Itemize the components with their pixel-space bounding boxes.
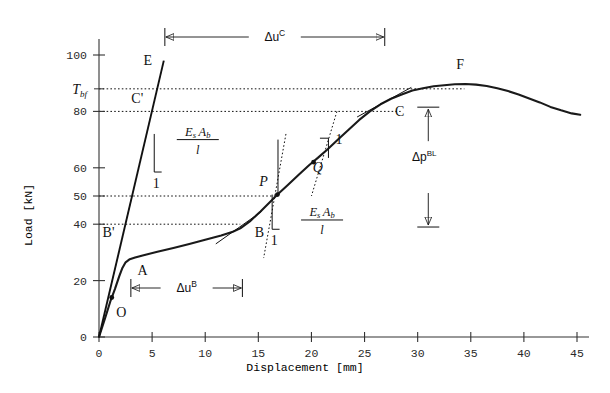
- main-load-displacement-curve: [99, 84, 580, 337]
- slope-label-lower-denominator: l: [320, 223, 324, 237]
- point-marker-o: [109, 295, 114, 300]
- x-tick-label: 15: [251, 347, 265, 360]
- dimension-annotations: ΔuCΔuBΔpBLEs AblEs Abl111: [131, 28, 439, 297]
- slope-label-upper: Es Abl: [177, 125, 219, 157]
- x-tick-label: 0: [96, 347, 103, 360]
- point-label-q: Q: [313, 160, 323, 175]
- x-tick-label: 40: [517, 347, 531, 360]
- x-tick-label: 45: [570, 347, 584, 360]
- x-tick-label: 20: [305, 347, 319, 360]
- x-tick-label: 5: [149, 347, 156, 360]
- x-tick-label: 10: [198, 347, 212, 360]
- slope-label-upper-denominator: l: [196, 143, 200, 157]
- point-label-bp: B': [103, 225, 115, 240]
- y-tick-label-tbf: Tbf: [72, 82, 88, 99]
- point-label-e: E: [144, 53, 153, 68]
- y-tick-label: 0: [80, 331, 87, 344]
- x-tick-label: 30: [411, 347, 425, 360]
- point-label-o: O: [116, 305, 126, 320]
- load-displacement-chart: ΔuCΔuBΔpBLEs AblEs Abl111 OABB'PQCC'EF 0…: [0, 0, 610, 393]
- y-tick-label: 50: [73, 190, 87, 203]
- x-tick-label: 25: [358, 347, 372, 360]
- axes: [93, 39, 589, 342]
- x-tick-label: 35: [464, 347, 478, 360]
- y-tick-label: 100: [66, 49, 87, 62]
- y-axis-title: Load [kN]: [8, 146, 22, 246]
- delta-p-bl-label: ΔpBL: [412, 149, 437, 164]
- point-label-cp: C': [131, 91, 143, 106]
- y-tick-label: 80: [73, 105, 87, 118]
- slope-unit-label-upper: 1: [153, 176, 160, 191]
- point-label-f: F: [456, 57, 464, 72]
- chart-figure: ΔuCΔuBΔpBLEs AblEs Abl111 OABB'PQCC'EF 0…: [0, 0, 610, 393]
- point-label-a: A: [137, 263, 148, 278]
- y-tick-label: 60: [73, 162, 87, 175]
- x-axis-title: Displacement [mm]: [0, 361, 610, 374]
- slope-label-lower-numerator: Es Ab: [308, 205, 334, 221]
- y-tick-label: 20: [73, 275, 87, 288]
- delta-u-b-label: ΔuB: [176, 279, 197, 295]
- point-label-p: P: [258, 174, 268, 189]
- point-marker-p: [275, 192, 280, 197]
- slope-label-upper-numerator: Es Ab: [184, 125, 210, 141]
- slope-label-lower: Es Abl: [301, 205, 343, 237]
- slope-unit-label-q: 1: [336, 132, 343, 147]
- data-curves: [99, 61, 580, 337]
- slope-unit-label-lower: 1: [271, 233, 278, 248]
- point-label-b: B: [255, 225, 264, 240]
- point-label-c: C: [395, 104, 404, 119]
- y-tick-label: 40: [73, 218, 87, 231]
- delta-u-c-label: ΔuC: [264, 28, 285, 44]
